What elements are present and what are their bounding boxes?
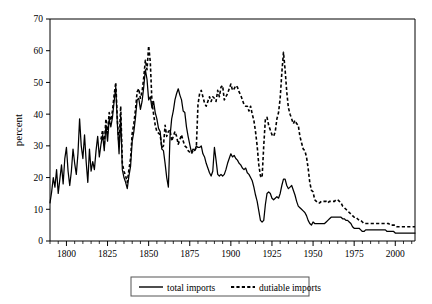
y-tick-label-30: 30 [34, 141, 44, 151]
series-dutiable-imports [101, 46, 415, 227]
chart-svg: 010203040506070 180018251850187519001925… [0, 0, 432, 304]
y-tick-label-50: 50 [34, 78, 44, 88]
x-tick-label-1825: 1825 [98, 249, 117, 259]
x-tick-label-1850: 1850 [139, 249, 158, 259]
legend-label-dutiable-imports: dutiable imports [259, 283, 321, 293]
y-axis-title: percent [12, 114, 24, 146]
data-series-group [50, 46, 415, 233]
x-axis: 180018251850187519001925195019752000 [50, 241, 412, 259]
y-tick-label-20: 20 [34, 173, 44, 183]
plot-frame [50, 19, 415, 241]
y-tick-label-0: 0 [38, 236, 43, 246]
x-tick-label-1950: 1950 [304, 249, 323, 259]
tariff-rate-chart-figure: 010203040506070 180018251850187519001925… [0, 0, 432, 304]
legend-label-total-imports: total imports [167, 283, 216, 293]
y-tick-label-10: 10 [34, 205, 44, 215]
y-tick-label-40: 40 [34, 110, 44, 120]
x-tick-label-1975: 1975 [345, 249, 364, 259]
series-total-imports [50, 70, 415, 233]
y-tick-label-60: 60 [34, 46, 44, 56]
y-axis: 010203040506070 [34, 14, 51, 246]
chart-legend: total imports dutiable imports [131, 277, 321, 296]
y-tick-label-70: 70 [34, 14, 44, 24]
x-tick-label-1875: 1875 [180, 249, 199, 259]
x-tick-label-2000: 2000 [386, 249, 405, 259]
x-tick-label-1925: 1925 [262, 249, 281, 259]
x-tick-label-1900: 1900 [221, 249, 240, 259]
x-tick-label-1800: 1800 [57, 249, 76, 259]
